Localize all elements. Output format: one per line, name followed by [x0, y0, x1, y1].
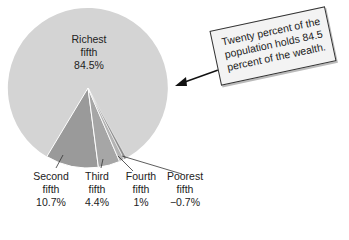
label-second: Second fifth 10.7% [28, 170, 74, 209]
label-poorest: Poorest fifth −0.7% [163, 170, 207, 209]
label-third-line2: fifth [80, 183, 114, 196]
label-richest-value: 84.5% [64, 59, 114, 72]
label-fourth: Fourth fifth 1% [121, 170, 161, 209]
label-richest-line1: Richest [64, 33, 114, 46]
callout-arrow-line [182, 69, 221, 83]
label-third-value: 4.4% [80, 196, 114, 209]
label-third: Third fifth 4.4% [80, 170, 114, 209]
label-richest-line2: fifth [64, 46, 114, 59]
label-fourth-line2: fifth [121, 183, 161, 196]
label-richest: Richest fifth 84.5% [64, 33, 114, 72]
label-second-line2: fifth [28, 183, 74, 196]
label-second-value: 10.7% [28, 196, 74, 209]
label-fourth-value: 1% [121, 196, 161, 209]
label-third-line1: Third [80, 170, 114, 183]
label-poorest-line1: Poorest [163, 170, 207, 183]
label-poorest-value: −0.7% [163, 196, 207, 209]
arrow-head-icon [175, 77, 187, 86]
label-second-line1: Second [28, 170, 74, 183]
label-fourth-line1: Fourth [121, 170, 161, 183]
label-poorest-line2: fifth [163, 183, 207, 196]
